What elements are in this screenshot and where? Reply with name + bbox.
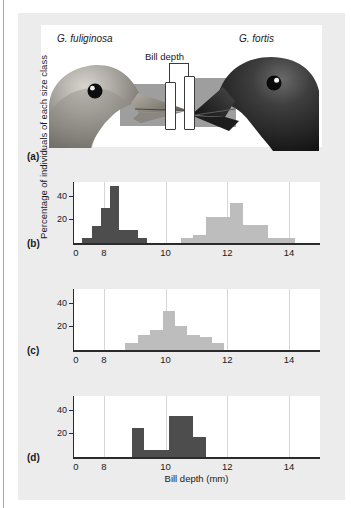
x-axis-tick-label: 0 <box>73 247 78 258</box>
histogram-bar <box>181 416 193 457</box>
histogram-bar <box>92 226 101 243</box>
x-axis-tick-label: 12 <box>222 461 233 472</box>
histogram-bar <box>110 186 119 243</box>
histogram-bar <box>218 217 230 243</box>
histogram-bar <box>132 428 144 458</box>
histogram-bar <box>156 450 168 457</box>
leader-line-connector <box>169 63 189 64</box>
histogram-bar <box>200 337 212 350</box>
plot-area-b <box>73 182 320 244</box>
figure-root: G. fuliginosa G. fortis Bill depth (a) (… <box>0 0 351 508</box>
species-label-left: G. fuliginosa <box>57 33 113 44</box>
x-axis-tick-label: 8 <box>101 461 106 472</box>
caliper-bar-icon-left <box>165 82 176 130</box>
histogram-bar <box>230 203 242 243</box>
x-axis-d <box>73 457 320 459</box>
x-axis-tick-label: 0 <box>73 354 78 365</box>
x-axis-tick-label: 14 <box>284 354 295 365</box>
page-left-rule <box>3 0 4 508</box>
bird-illustration-panel: G. fuliginosa G. fortis Bill depth <box>41 25 322 147</box>
y-axis-d <box>73 396 74 458</box>
histogram-bar <box>129 230 138 243</box>
y-axis-tick-label: 40 <box>57 191 67 201</box>
histogram-bar <box>193 437 205 457</box>
gridline <box>104 396 105 457</box>
x-axis-c <box>73 350 320 352</box>
y-axis-c <box>73 289 74 351</box>
gridline <box>227 289 228 350</box>
histogram-chart-d: 204008101214 <box>73 396 320 468</box>
x-axis-tick-label: 12 <box>222 247 233 258</box>
plot-area-c <box>73 289 320 351</box>
histogram-bar <box>163 311 175 350</box>
histogram-bar <box>119 230 128 243</box>
histogram-bar <box>212 343 224 350</box>
y-axis-tick-label: 20 <box>57 214 67 224</box>
x-axis-tick-label: 12 <box>222 354 233 365</box>
leader-line-right <box>188 63 189 77</box>
x-axis-tick-label: 10 <box>160 461 171 472</box>
gridline <box>289 396 290 457</box>
x-axis-tick-label: 8 <box>101 247 106 258</box>
gridline <box>289 182 290 243</box>
histogram-bar <box>138 335 150 350</box>
histogram-bar <box>255 225 267 243</box>
y-axis-title: Percentage of individuals of each size c… <box>38 42 49 252</box>
histogram-bar <box>243 225 255 243</box>
x-axis-tick-label: 8 <box>101 354 106 365</box>
y-axis-tick <box>69 219 73 220</box>
histogram-chart-c: 204008101214 <box>73 289 320 361</box>
bird-illustration-inner: G. fuliginosa G. fortis Bill depth <box>41 25 322 147</box>
x-axis-b <box>73 243 320 245</box>
gridline <box>166 396 167 457</box>
leader-line-left <box>169 63 170 83</box>
finch-head-dark-icon <box>189 43 329 151</box>
plot-area-d <box>73 396 320 458</box>
x-axis-tick-label: 14 <box>284 461 295 472</box>
gridline <box>289 289 290 350</box>
bill-depth-annotation: Bill depth <box>145 51 184 62</box>
caliper-bar-icon-right <box>184 76 195 130</box>
gridline <box>166 182 167 243</box>
y-axis-tick <box>69 433 73 434</box>
x-axis-title: Bill depth (mm) <box>73 473 320 484</box>
histogram-bar <box>187 335 199 350</box>
histogram-chart-b: 204008101214 <box>73 182 320 254</box>
y-axis-tick <box>69 196 73 197</box>
panel-letter-d: (d) <box>27 452 40 463</box>
gridline <box>227 396 228 457</box>
histogram-bar <box>193 235 205 243</box>
histogram-bar <box>125 343 137 350</box>
y-axis-tick-label: 40 <box>57 405 67 415</box>
x-axis-tick-label: 0 <box>73 461 78 472</box>
panel-letter-c: (c) <box>27 345 39 356</box>
x-axis-tick-label: 10 <box>160 247 171 258</box>
y-axis-tick <box>69 326 73 327</box>
gridline <box>104 289 105 350</box>
y-axis-tick-label: 40 <box>57 298 67 308</box>
histogram-bar <box>101 208 110 243</box>
species-label-right: G. fortis <box>239 33 274 44</box>
y-axis-tick-label: 20 <box>57 428 67 438</box>
y-axis-tick <box>69 410 73 411</box>
histogram-bar <box>175 326 187 350</box>
y-axis-tick-label: 20 <box>57 321 67 331</box>
x-axis-tick-label: 14 <box>284 247 295 258</box>
histogram-bar <box>169 416 181 457</box>
histogram-bar <box>150 330 162 350</box>
histogram-bar <box>144 450 156 457</box>
y-axis-tick <box>69 303 73 304</box>
y-axis-b <box>73 182 74 244</box>
x-axis-tick-label: 10 <box>160 354 171 365</box>
histogram-bar <box>206 217 218 243</box>
